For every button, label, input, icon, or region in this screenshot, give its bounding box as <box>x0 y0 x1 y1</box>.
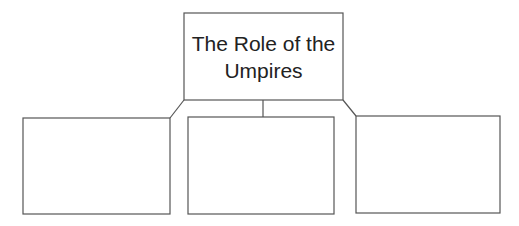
child-box-left <box>23 118 170 214</box>
root-title-line1: The Role of the <box>192 30 336 57</box>
root-title: The Role of the Umpires <box>184 13 343 100</box>
connector-right <box>343 100 356 116</box>
child-box-middle <box>188 117 334 214</box>
root-title-line2: Umpires <box>192 57 336 84</box>
connector-left <box>170 100 184 118</box>
child-box-right <box>356 116 500 213</box>
